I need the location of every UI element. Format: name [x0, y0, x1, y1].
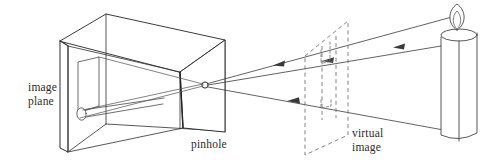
pinhole-aperture	[202, 82, 208, 88]
pinhole-camera-diagram: image plane pinhole virtual image	[0, 0, 487, 165]
label-virtual-image-line2: image	[352, 141, 381, 154]
label-image-plane-line1: image	[28, 81, 57, 94]
virtual-plane-back	[305, 21, 348, 155]
box-back-face	[60, 41, 68, 152]
box-edge-bottom-front	[68, 128, 183, 152]
label-virtual-image-line1: virtual	[352, 127, 383, 139]
label-image-plane-line2: plane	[28, 95, 54, 108]
candle-object	[441, 4, 477, 141]
pinhole-camera-figure: image plane pinhole virtual image	[0, 0, 487, 165]
label-pinhole: pinhole	[191, 138, 227, 151]
image-plane-panel-face	[78, 57, 99, 113]
virtual-image-plane	[305, 21, 348, 155]
virtual-candle-base-foot	[321, 98, 331, 108]
light-rays	[208, 17, 452, 131]
ray-lower-candle-base	[208, 87, 449, 131]
ray-arrowhead-upper-right	[393, 44, 405, 50]
image-plane-panel	[78, 57, 99, 113]
ray-arrowhead-upper-left	[273, 61, 285, 67]
candle-top-rim	[441, 29, 477, 41]
